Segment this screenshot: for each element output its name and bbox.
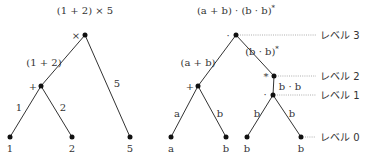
expression-tree-diagram: (1 + 2) × 5 × (1 + 2) + 1 2 5 1 2 5 レベル … [0,0,365,163]
level-label-1: レベル 1 [320,90,360,101]
plus-node [196,84,201,89]
leaf-label: 2 [69,143,75,154]
dot-node [271,93,276,98]
subexpr-label: (b · b)* [245,45,279,57]
root-node [234,33,239,38]
leaf-node [8,135,13,140]
root-node [83,33,88,38]
level-label-0: レベル 0 [320,132,360,143]
op-label: + [186,81,194,92]
edge-label: 5 [114,78,120,89]
leaf-label: 5 [127,143,133,154]
subexpr-label: b · b [279,81,301,92]
level-label-3: レベル 3 [320,30,360,41]
edge [10,86,41,137]
op-label: * [264,71,269,82]
op-label: + [29,81,37,92]
leaf-label: b [298,143,304,154]
edge [273,76,274,95]
edge [85,35,130,137]
leaf-label: b [244,143,250,154]
edge-label: 1 [16,102,22,113]
subexpr-label: (a + b) [181,57,216,68]
right-tree: (a + b) · (b · b)* · (a + b) (b · b)* + … [168,4,304,154]
edge [273,95,301,137]
op-label: · [226,30,229,41]
op-label: · [263,89,266,100]
plus-node [39,84,44,89]
edge [41,86,72,137]
leaf-node [245,135,250,140]
leaf-node [169,135,174,140]
left-tree: (1 + 2) × 5 × (1 + 2) + 1 2 5 1 2 5 [7,5,133,154]
subexpr-label: (1 + 2) [26,57,61,68]
edge-label: b [217,108,223,119]
edge-label: 2 [60,102,66,113]
leaf-label: b [223,143,229,154]
edge-label: b [254,108,260,119]
leaf-node [128,135,133,140]
edge-label: a [174,108,180,119]
level-label-2: レベル 2 [320,71,360,82]
leaf-label: 1 [7,143,13,154]
right-tree-title: (a + b) · (b · b)* [197,4,276,16]
leaf-node [70,135,75,140]
op-label: × [72,30,80,41]
star-node [272,74,277,79]
left-tree-title: (1 + 2) × 5 [57,5,113,16]
leaf-label: a [168,143,174,154]
edge-label: b [289,108,295,119]
leaf-node [224,135,229,140]
leaf-node [299,135,304,140]
